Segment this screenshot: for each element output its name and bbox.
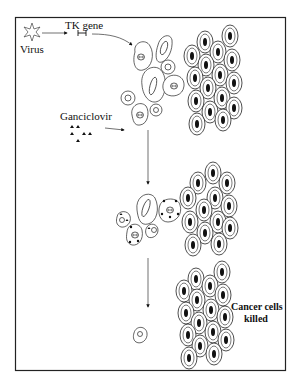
tk-gene-label: TK gene	[65, 19, 103, 31]
ganciclovir-arrow	[105, 128, 124, 130]
transduced-cell-cluster	[121, 36, 184, 125]
ganciclovir-label: Ganciclovir	[60, 110, 112, 122]
cancer-cells-killed-label-line1: Cancer cells	[231, 301, 283, 313]
virus-label: Virus	[20, 43, 44, 55]
cancer-cells-killed-label-line2: killed	[244, 313, 268, 325]
virus-icon	[24, 23, 40, 41]
gene-to-cells-arrow	[92, 34, 132, 45]
tumor-cells-stage-2	[180, 162, 238, 256]
tumor-cells-stage-1	[184, 25, 242, 135]
tumor-cells-stage-3	[176, 261, 234, 369]
ganciclovir-molecules	[70, 125, 92, 142]
drug-exposed-cell-cluster	[116, 194, 180, 245]
diagram-canvas	[0, 0, 301, 385]
surviving-normal-cell	[133, 327, 147, 343]
